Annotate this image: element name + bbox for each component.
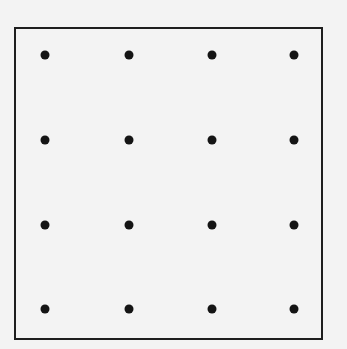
grid-dot [41,305,50,314]
grid-dot [290,136,299,145]
grid-dot [208,51,217,60]
grid-dot [208,136,217,145]
grid-dot [290,51,299,60]
grid-dot [125,51,134,60]
grid-dot [125,136,134,145]
grid-dot [41,51,50,60]
grid-dot [41,221,50,230]
grid-dot [290,221,299,230]
square-frame [14,27,323,340]
grid-dot [125,305,134,314]
grid-dot [125,221,134,230]
grid-dot [41,136,50,145]
grid-dot [208,305,217,314]
grid-dot [208,221,217,230]
grid-dot [290,305,299,314]
